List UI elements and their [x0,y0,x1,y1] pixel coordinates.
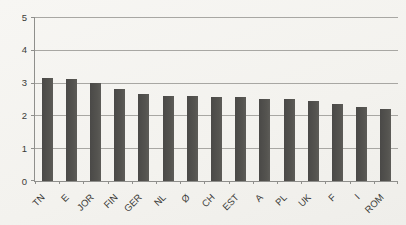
bar [90,83,101,181]
bar [138,94,149,181]
x-axis-tick [83,181,84,184]
x-axis-tick [350,181,351,184]
y-axis-tick [31,50,35,51]
gridline [35,17,398,18]
y-axis-label: 0 [9,176,27,187]
bar [42,78,53,181]
x-axis-tick [35,181,36,184]
x-axis-tick [325,181,326,184]
y-axis-label: 1 [9,143,27,154]
bar [187,96,198,181]
x-axis-tick [108,181,109,184]
x-axis-tick [253,181,254,184]
y-axis-tick [31,83,35,84]
bar [259,99,270,181]
bar [235,97,246,181]
gridline [35,50,398,51]
x-axis-tick [59,181,60,184]
bar [332,104,343,181]
x-axis-tick [397,181,398,184]
bar [284,99,295,181]
x-axis-tick [180,181,181,184]
y-axis-label: 3 [9,77,27,88]
x-axis-tick [277,181,278,184]
x-axis-tick [156,181,157,184]
x-axis-tick [374,181,375,184]
y-axis-label: 5 [9,12,27,23]
y-axis-tick [31,17,35,18]
scanned-chart-page: 012345TNEJORFINGERNLØCHESTAPLUKFIROM [0,0,406,225]
bar-chart-plot-area: 012345TNEJORFINGERNLØCHESTAPLUKFIROM [34,17,398,182]
x-axis-tick [132,181,133,184]
bar [308,101,319,181]
y-axis-label: 4 [9,44,27,55]
bar [114,89,125,181]
bar [66,79,77,181]
bar [380,109,391,181]
x-axis-tick [204,181,205,184]
x-axis-tick [229,181,230,184]
x-axis-tick [301,181,302,184]
y-axis-tick [31,115,35,116]
y-axis-tick [31,148,35,149]
bar [356,107,367,181]
y-axis-label: 2 [9,110,27,121]
bar [211,97,222,181]
bar [163,96,174,181]
